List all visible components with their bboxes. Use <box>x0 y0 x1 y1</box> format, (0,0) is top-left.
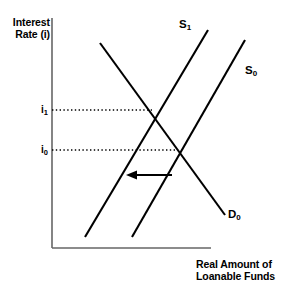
curve-label-d0-subscript: 0 <box>236 213 240 222</box>
y-axis-title-line2: Rate (i) <box>15 28 50 40</box>
loanable-funds-diagram: InterestRate (i) Real Amount ofLoanable … <box>0 0 298 287</box>
curve-label-s0-subscript: 0 <box>253 69 257 78</box>
x-axis-title-line2: Loanable Funds <box>196 270 275 282</box>
curve-label-s1-base: S <box>179 18 187 30</box>
tick-label-i1-subscript: 1 <box>44 108 48 117</box>
curve-label-s1-subscript: 1 <box>187 23 191 32</box>
shift-arrow-head <box>126 171 137 180</box>
tick-label-i0: i0 <box>28 144 48 156</box>
curve-label-s0: S0 <box>245 64 257 78</box>
tick-label-i1: i1 <box>28 104 48 116</box>
tick-label-i0-subscript: 0 <box>44 148 48 157</box>
supply-curve-s1 <box>85 30 208 237</box>
curve-label-d0: D0 <box>228 208 241 222</box>
demand-curve-d0 <box>100 43 225 215</box>
curve-label-s0-base: S <box>245 64 253 76</box>
x-axis-title: Real Amount ofLoanable Funds <box>196 258 298 283</box>
x-axis-title-line1: Real Amount of <box>196 258 272 270</box>
axes-group <box>52 18 211 248</box>
y-axis-title: InterestRate (i) <box>0 16 50 41</box>
equilibrium-guides-group <box>52 110 178 150</box>
curves-group <box>85 30 245 237</box>
y-axis-title-line1: Interest <box>13 16 50 28</box>
curve-label-s1: S1 <box>179 18 191 32</box>
